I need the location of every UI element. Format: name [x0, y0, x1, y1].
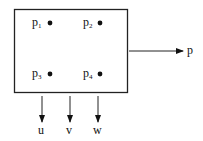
point-label-1: p1 [32, 16, 42, 30]
point-label-2: p2 [83, 16, 93, 30]
point-sub: 2 [89, 22, 93, 30]
point-sub: 1 [38, 22, 42, 30]
point-sub: 3 [38, 73, 42, 81]
point-dot-2 [98, 21, 103, 26]
point-dot-4 [98, 72, 103, 77]
point-label-3: p3 [32, 67, 42, 81]
label-v: v [66, 124, 72, 136]
point-sub: 4 [89, 73, 93, 81]
label-w: w [93, 124, 102, 136]
point-dot-1 [48, 21, 53, 26]
output-label: p [187, 44, 193, 56]
diagram-canvas [0, 0, 203, 141]
point-dot-3 [48, 72, 53, 77]
point-label-4: p4 [83, 67, 93, 81]
label-u: u [38, 124, 44, 136]
